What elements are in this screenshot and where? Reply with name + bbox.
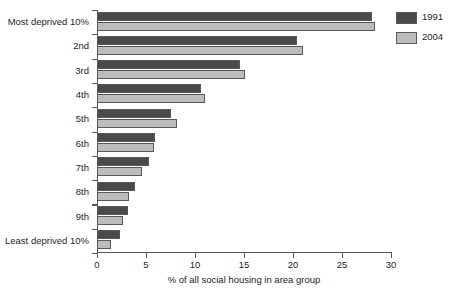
x-tick (195, 253, 196, 258)
y-tick (92, 253, 97, 254)
bar-1991-10 (97, 230, 120, 239)
x-tick-label-0: 0 (77, 259, 117, 270)
bar-group (97, 133, 391, 157)
legend-swatch-2004 (396, 32, 417, 44)
bar-2004-7 (97, 167, 142, 176)
y-tick (92, 204, 97, 205)
y-axis-label-text: 5th (76, 113, 89, 124)
bar-2004-3 (97, 70, 245, 79)
y-tick (92, 34, 97, 35)
x-tick-label-15: 15 (224, 259, 264, 270)
bar-1991-9 (97, 206, 128, 215)
y-tick (92, 10, 97, 11)
legend-label-1991: 1991 (422, 11, 443, 22)
x-tick (293, 253, 294, 258)
bar-1991-7 (97, 157, 149, 166)
y-axis-label-text: 3rd (75, 65, 89, 76)
bar-1991-4 (97, 84, 201, 93)
y-tick (92, 132, 97, 133)
y-axis-line (97, 10, 98, 253)
y-axis-label-text: 9th (76, 211, 89, 222)
bar-1991-3 (97, 60, 240, 69)
bar-group (97, 206, 391, 230)
plot-area (97, 10, 391, 253)
x-tick (342, 253, 343, 258)
y-tick (92, 229, 97, 230)
bar-2004-1 (97, 22, 375, 31)
bar-2004-10 (97, 240, 111, 249)
bar-group (97, 109, 391, 133)
bar-1991-5 (97, 109, 171, 118)
x-tick (146, 253, 147, 258)
y-axis-label-text: 2nd (73, 40, 89, 51)
y-axis-label-text: 8th (76, 186, 89, 197)
x-tick (97, 253, 98, 258)
x-tick-label-5: 5 (126, 259, 166, 270)
bar-group (97, 36, 391, 60)
y-tick (92, 107, 97, 108)
bar-1991-2 (97, 36, 297, 45)
y-axis-label-text: 7th (76, 162, 89, 173)
bar-1991-8 (97, 182, 135, 191)
bar-1991-1 (97, 12, 372, 21)
bar-1991-6 (97, 133, 155, 142)
bar-2004-5 (97, 119, 177, 128)
y-axis-label-text: 4th (76, 89, 89, 100)
y-axis-label-text: Least deprived 10% (5, 235, 89, 246)
x-tick (244, 253, 245, 258)
x-tick (391, 253, 392, 258)
y-tick (92, 59, 97, 60)
legend-swatch-1991 (396, 12, 417, 24)
x-tick-label-25: 25 (322, 259, 362, 270)
bar-2004-8 (97, 192, 129, 201)
y-tick (92, 180, 97, 181)
x-tick-label-20: 20 (273, 259, 313, 270)
bar-group (97, 12, 391, 36)
bar-2004-4 (97, 94, 205, 103)
bar-chart: 051015202530 Most deprived 10%2nd3rd4th5… (0, 0, 461, 293)
bar-group (97, 182, 391, 206)
y-axis-label-text: Most deprived 10% (8, 16, 89, 27)
bar-group (97, 84, 391, 108)
y-tick (92, 83, 97, 84)
y-tick (92, 156, 97, 157)
bar-2004-6 (97, 143, 154, 152)
x-tick-label-10: 10 (175, 259, 215, 270)
bar-group (97, 230, 391, 254)
bar-2004-9 (97, 216, 123, 225)
bar-2004-2 (97, 46, 303, 55)
y-axis-label-text: 6th (76, 138, 89, 149)
legend-label-2004: 2004 (422, 31, 443, 42)
bar-group (97, 157, 391, 181)
x-axis-title: % of all social housing in area group (97, 274, 391, 285)
x-tick-label-30: 30 (371, 259, 411, 270)
bar-group (97, 60, 391, 84)
